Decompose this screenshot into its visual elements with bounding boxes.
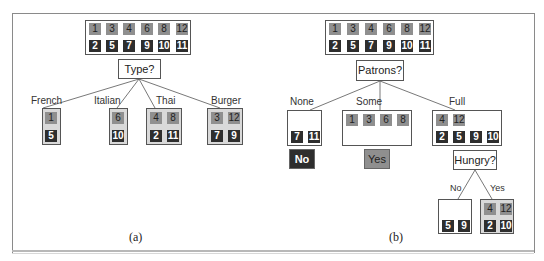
positive-example: 3 — [347, 23, 359, 35]
positive-example: 12 — [228, 112, 240, 124]
positive-example: 1 — [45, 112, 57, 124]
positive-example: 3 — [211, 112, 223, 124]
positive-example: 4 — [365, 23, 377, 35]
negative-example: 11 — [419, 40, 431, 52]
thai-examples-box: 4 8 2 11 — [146, 108, 182, 145]
caption-a: (a) — [129, 230, 142, 245]
branch-label-burger: Burger — [211, 95, 241, 106]
negative-example: 10 — [112, 130, 124, 142]
negative-example: 10 — [401, 40, 413, 52]
negative-example: 10 — [487, 131, 499, 143]
positive-example: 12 — [419, 23, 431, 35]
negative-example: 2 — [484, 220, 496, 232]
positive-example: 8 — [158, 23, 170, 35]
hungry-question-node: Hungry? — [453, 150, 497, 170]
negative-example: 5 — [442, 220, 454, 232]
branch-label-french: French — [31, 95, 62, 106]
root-examples-box-a: 1 3 4 6 8 12 2 5 7 9 10 11 — [85, 20, 191, 55]
negative-example: 7 — [365, 40, 377, 52]
positive-example: 6 — [141, 23, 153, 35]
positive-example: 4 — [436, 114, 448, 126]
positive-example: 8 — [401, 23, 413, 35]
italian-examples-box: 6 10 — [109, 108, 128, 145]
branch-label-hungry-no: No — [450, 183, 462, 193]
negative-example: 10 — [500, 220, 512, 232]
negative-example: 5 — [347, 40, 359, 52]
root-examples-box-b: 1 3 4 6 8 12 2 5 7 9 10 11 — [325, 20, 434, 55]
positive-example: 6 — [112, 112, 124, 124]
leaf-no: No — [289, 149, 315, 169]
hungry-yes-examples-box: 4 12 2 10 — [480, 199, 514, 234]
none-examples-box: 7 11 — [287, 110, 322, 146]
positive-example: 12 — [176, 23, 188, 35]
negative-example: 7 — [291, 131, 303, 143]
french-examples-box: 1 5 — [42, 108, 61, 145]
positive-example: 4 — [484, 203, 496, 215]
branch-label-full: Full — [449, 96, 465, 107]
burger-examples-box: 3 12 7 9 — [207, 108, 243, 145]
negative-example: 11 — [167, 130, 179, 142]
positive-example: 3 — [363, 114, 375, 126]
negative-example: 2 — [329, 40, 341, 52]
branch-label-italian: Italian — [94, 95, 121, 106]
negative-example: 9 — [383, 40, 395, 52]
positive-example: 1 — [346, 114, 358, 126]
positive-example: 12 — [453, 114, 465, 126]
positive-example: 1 — [329, 23, 341, 35]
branch-label-hungry-yes: Yes — [490, 183, 505, 193]
some-examples-box: 1 3 6 8 — [342, 110, 412, 146]
positive-example: 4 — [123, 23, 135, 35]
hungry-no-examples-box: 5 9 — [438, 199, 472, 234]
negative-example: 7 — [211, 130, 223, 142]
negative-example: 9 — [228, 130, 240, 142]
branch-label-none: None — [290, 96, 314, 107]
positive-example: 6 — [380, 114, 392, 126]
type-question-node: Type? — [118, 59, 161, 79]
positive-example: 8 — [397, 114, 409, 126]
negative-example: 7 — [123, 40, 135, 52]
negative-example: 11 — [176, 40, 188, 52]
negative-example: 2 — [89, 40, 101, 52]
branch-label-some: Some — [356, 96, 382, 107]
negative-example: 9 — [458, 220, 470, 232]
positive-example: 6 — [383, 23, 395, 35]
negative-example: 2 — [436, 131, 448, 143]
caption-b: (b) — [389, 230, 403, 245]
positive-example: 4 — [150, 112, 162, 124]
positive-example: 8 — [167, 112, 179, 124]
patrons-question-node: Patrons? — [356, 60, 404, 81]
negative-example: 11 — [308, 131, 320, 143]
negative-example: 2 — [150, 130, 162, 142]
positive-example: 1 — [89, 23, 101, 35]
negative-example: 5 — [453, 131, 465, 143]
negative-example: 9 — [141, 40, 153, 52]
positive-example: 3 — [106, 23, 118, 35]
positive-example: 12 — [500, 203, 512, 215]
negative-example: 10 — [158, 40, 170, 52]
leaf-yes: Yes — [364, 149, 390, 169]
branch-label-thai: Thai — [156, 95, 175, 106]
full-examples-box: 4 12 2 5 9 10 — [432, 110, 502, 146]
negative-example: 9 — [470, 131, 482, 143]
negative-example: 5 — [45, 130, 57, 142]
negative-example: 5 — [106, 40, 118, 52]
